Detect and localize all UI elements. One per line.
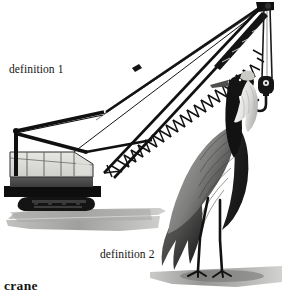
- hoist-cable: [262, 8, 272, 78]
- cab-lower-body: [10, 176, 93, 187]
- crawler-track: [4, 186, 101, 211]
- definition-1-label: definition 1: [9, 63, 64, 75]
- boom-tip-sheave: [256, 2, 274, 12]
- operator-cab: [10, 152, 93, 177]
- illustration-page: definition 1 definition 2 crane: [0, 0, 282, 301]
- hook-block: [258, 76, 274, 96]
- headword-crane: crane: [4, 278, 38, 294]
- bird-eye: [239, 79, 241, 81]
- definition-2-label: definition 2: [100, 248, 155, 260]
